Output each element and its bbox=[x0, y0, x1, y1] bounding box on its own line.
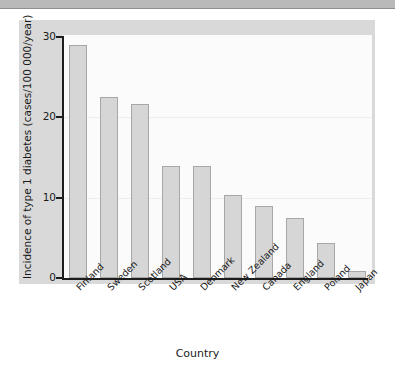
y-axis-tick-mark bbox=[56, 116, 63, 118]
y-axis-tick-mark bbox=[56, 36, 63, 38]
bar bbox=[193, 166, 211, 278]
y-axis-tick-label: 20 bbox=[10, 111, 56, 121]
top-banner-rule bbox=[0, 8, 395, 9]
x-axis-title: Country bbox=[0, 347, 395, 360]
y-axis-line bbox=[62, 36, 64, 279]
y-axis-tick-label: 30 bbox=[10, 31, 56, 41]
y-axis-tick-mark bbox=[56, 277, 63, 279]
bar bbox=[69, 45, 87, 278]
bar bbox=[100, 97, 118, 278]
bar bbox=[131, 104, 149, 278]
y-axis-tick-label: 0 bbox=[10, 272, 56, 282]
y-axis-tick-label: 10 bbox=[10, 192, 56, 202]
y-axis-title: Incidence of type 1 diabetes (cases/100 … bbox=[21, 29, 33, 279]
top-banner-band bbox=[0, 0, 395, 8]
figure: 0102030 FinlandSwedenScotlandUSADenmarkN… bbox=[0, 0, 395, 374]
y-axis-tick-mark bbox=[56, 197, 63, 199]
